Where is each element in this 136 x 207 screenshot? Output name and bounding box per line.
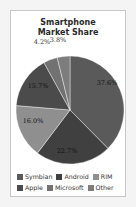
legend-swatch-rim bbox=[93, 174, 99, 180]
pie-chart: 37.6%22.7%16.0%15.7%4.2%3.8% bbox=[11, 11, 127, 171]
legend-label-symbian: Symbian bbox=[25, 173, 52, 180]
data-label-other: 3.8% bbox=[50, 36, 67, 44]
legend-item-symbian: Symbian bbox=[17, 173, 52, 180]
legend-item-rim: RIM bbox=[93, 173, 113, 180]
legend-swatch-other bbox=[88, 185, 94, 191]
data-label-symbian: 37.6% bbox=[97, 79, 118, 87]
data-label-android: 22.7% bbox=[57, 147, 78, 155]
legend-swatch-android bbox=[56, 174, 62, 180]
legend-label-other: Other bbox=[96, 184, 114, 191]
legend-label-rim: RIM bbox=[101, 173, 113, 180]
legend-label-android: Android bbox=[64, 173, 88, 180]
chart-frame: Smartphone Market Share 37.6%22.7%16.0%1… bbox=[10, 10, 126, 197]
legend-row-2: Apple Microsoft Other bbox=[17, 184, 125, 191]
legend-item-microsoft: Microsoft bbox=[47, 184, 84, 191]
data-label-microsoft: 4.2% bbox=[34, 38, 51, 46]
legend-label-apple: Apple bbox=[25, 184, 43, 191]
data-label-apple: 15.7% bbox=[28, 82, 49, 90]
legend-label-microsoft: Microsoft bbox=[55, 184, 84, 191]
data-label-rim: 16.0% bbox=[23, 117, 44, 125]
legend-row-1: Symbian Android RIM bbox=[17, 173, 125, 180]
legend-item-apple: Apple bbox=[17, 184, 43, 191]
legend-swatch-apple bbox=[17, 185, 23, 191]
chart-legend: Symbian Android RIM Apple Microsoft Othe… bbox=[17, 173, 125, 195]
legend-item-android: Android bbox=[56, 173, 88, 180]
legend-item-other: Other bbox=[88, 184, 114, 191]
legend-swatch-symbian bbox=[17, 174, 23, 180]
legend-swatch-microsoft bbox=[47, 185, 53, 191]
